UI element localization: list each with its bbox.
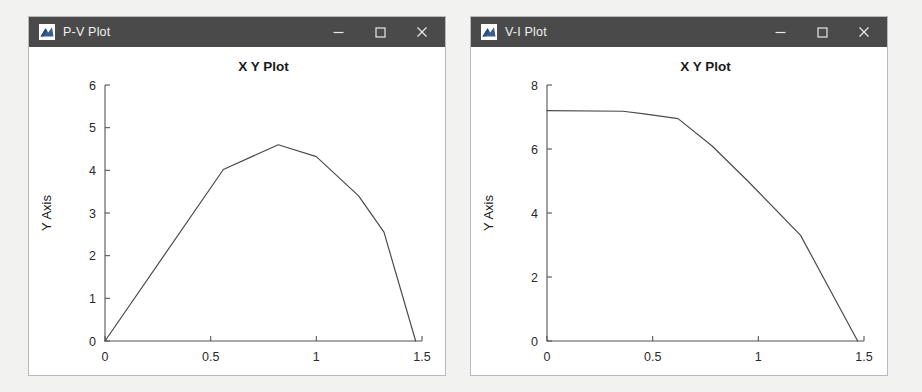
x-tick-label: 0 [544,350,551,364]
y-tick-label: 6 [89,79,96,93]
data-series-line [547,111,858,341]
x-tick-label: 0.5 [644,350,661,364]
xy-plot-vi: X Y Plot0246800.511.5X AxisY Axis [471,47,887,375]
window-title-pv: P-V Plot [63,25,110,39]
titlebar-vi-plot[interactable]: V-I Plot [471,17,887,47]
y-tick-label: 2 [89,249,96,263]
x-tick-label: 1.5 [413,350,430,364]
y-tick-label: 6 [531,143,538,157]
matlab-figure-icon [39,24,55,40]
y-axis-label: Y Axis [39,195,54,231]
close-icon[interactable] [401,18,443,46]
plot-canvas-vi: X Y Plot0246800.511.5X AxisY Axis [471,47,887,375]
y-tick-label: 0 [89,335,96,349]
window-vi-plot[interactable]: V-I Plot X Y Plot0246800.511.5X AxisY Ax… [470,16,888,376]
minimize-icon[interactable] [317,18,359,46]
x-tick-label: 0.5 [202,350,219,364]
x-tick-label: 1.5 [855,350,872,364]
close-icon[interactable] [843,18,885,46]
y-tick-label: 4 [89,164,96,178]
x-tick-label: 0 [102,350,109,364]
window-pv-plot[interactable]: P-V Plot X Y Plot012345600.511.5X AxisY … [28,16,446,376]
y-tick-label: 4 [531,207,538,221]
chart-title: X Y Plot [680,59,731,74]
minimize-icon[interactable] [759,18,801,46]
maximize-icon[interactable] [359,18,401,46]
desktop-background: P-V Plot X Y Plot012345600.511.5X AxisY … [0,0,922,392]
y-tick-label: 8 [531,79,538,93]
y-tick-label: 2 [531,271,538,285]
x-axis-label: X Axis [687,373,724,375]
titlebar-pv-plot[interactable]: P-V Plot [29,17,445,47]
x-tick-label: 1 [755,350,762,364]
xy-plot-pv: X Y Plot012345600.511.5X AxisY Axis [29,47,445,375]
window-title-vi: V-I Plot [505,25,547,39]
maximize-icon[interactable] [801,18,843,46]
y-tick-label: 3 [89,207,96,221]
matlab-figure-icon [481,24,497,40]
axis-lines [547,85,864,341]
data-series-line [105,145,416,341]
plot-canvas-pv: X Y Plot012345600.511.5X AxisY Axis [29,47,445,375]
axis-lines [105,85,422,341]
y-tick-label: 0 [531,335,538,349]
x-axis-label: X Axis [245,373,282,375]
chart-title: X Y Plot [238,59,289,74]
y-axis-label: Y Axis [481,195,496,231]
x-tick-label: 1 [313,350,320,364]
y-tick-label: 5 [89,121,96,135]
y-tick-label: 1 [89,292,96,306]
